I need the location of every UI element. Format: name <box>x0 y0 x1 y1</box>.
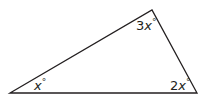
angle-label-right: 2x° <box>170 77 190 93</box>
angle-label-top: 3x° <box>136 17 156 33</box>
triangle-diagram: x° 3x° 2x° <box>0 0 205 100</box>
angle-label-left: x° <box>33 77 46 93</box>
